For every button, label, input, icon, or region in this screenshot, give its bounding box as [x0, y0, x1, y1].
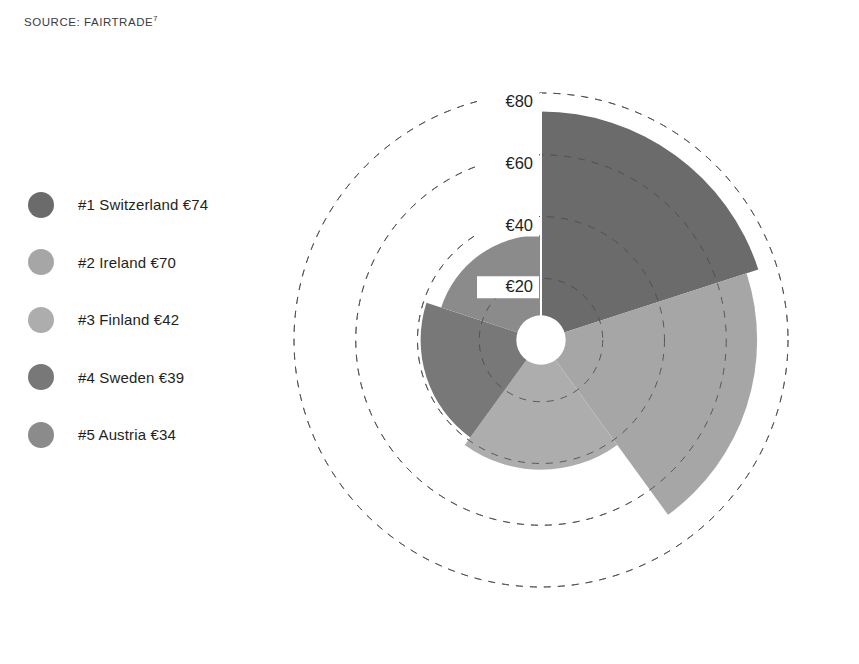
legend-label-4: #4 Sweden €39	[78, 369, 184, 386]
center-hole	[516, 315, 565, 364]
legend-label-5: #5 Austria €34	[78, 426, 176, 443]
legend-label-1: #1 Switzerland €74	[78, 196, 208, 213]
legend-label-3: #3 Finland €42	[78, 311, 179, 328]
legend-item[interactable]: #1 Switzerland €74	[28, 176, 278, 234]
legend-label-2: #2 Ireland €70	[78, 254, 176, 271]
legend-swatch-1	[28, 192, 54, 218]
source-note-text: SOURCE: FAIRTRADE	[24, 16, 153, 28]
source-note-superscript: 7	[153, 14, 158, 23]
tick-label-20: €20	[505, 277, 533, 295]
source-note: SOURCE: FAIRTRADE7	[24, 14, 158, 28]
legend-item[interactable]: #5 Austria €34	[28, 406, 278, 464]
center-hole-circle	[516, 315, 565, 364]
legend-swatch-2	[28, 249, 54, 275]
tick-label-80: €80	[505, 92, 533, 110]
tick-label-60: €60	[505, 154, 533, 172]
chart-legend: #1 Switzerland €74 #2 Ireland €70 #3 Fin…	[28, 176, 278, 464]
tick-label-40: €40	[505, 216, 533, 234]
legend-swatch-4	[28, 364, 54, 390]
legend-swatch-3	[28, 307, 54, 333]
legend-item[interactable]: #4 Sweden €39	[28, 349, 278, 407]
legend-item[interactable]: #2 Ireland €70	[28, 234, 278, 292]
polar-chart-svg: €20€40€60€80	[255, 45, 845, 645]
polar-bar-chart: €20€40€60€80	[255, 45, 845, 645]
legend-swatch-5	[28, 422, 54, 448]
legend-item[interactable]: #3 Finland €42	[28, 291, 278, 349]
